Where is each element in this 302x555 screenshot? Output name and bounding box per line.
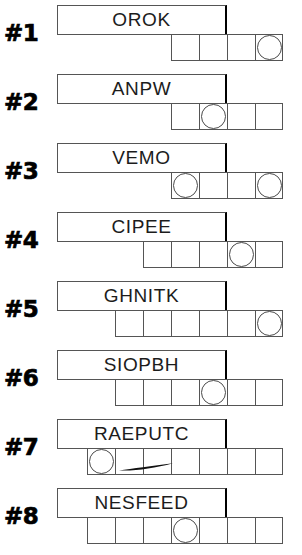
answer-cell[interactable] — [115, 517, 143, 544]
puzzle-row: #6SIOPBH — [0, 345, 302, 414]
answer-cell[interactable] — [227, 34, 255, 61]
answer-cell[interactable] — [115, 448, 143, 475]
answer-cell[interactable] — [227, 517, 255, 544]
circle-icon — [173, 518, 198, 543]
row-number-label: #8 — [4, 503, 56, 529]
scrambled-word-box: SIOPBH — [57, 350, 227, 380]
answer-cell[interactable] — [199, 517, 227, 544]
answer-cell[interactable] — [87, 517, 115, 544]
scrambled-word-box: GHNITK — [57, 281, 227, 311]
answer-cell-strip — [171, 172, 283, 199]
answer-cell[interactable] — [255, 448, 283, 475]
answer-cell[interactable] — [143, 310, 171, 337]
answer-cell-strip — [171, 103, 283, 130]
answer-cell[interactable] — [199, 310, 227, 337]
circle-icon — [257, 173, 282, 198]
answer-cell[interactable] — [87, 448, 115, 475]
answer-cell[interactable] — [255, 517, 283, 544]
scrambled-word-box: CIPEE — [57, 212, 227, 242]
answer-cell-strip — [115, 379, 283, 406]
answer-cell[interactable] — [199, 448, 227, 475]
answer-cell[interactable] — [227, 310, 255, 337]
circle-icon — [89, 449, 114, 474]
scrambled-word-text: SIOPBH — [58, 354, 225, 376]
scrambled-word-box: OROK — [57, 5, 227, 35]
worksheet-sheet: #1OROK#2ANPW#3VEMO#4CIPEE#5GHNITK#6SIOPB… — [0, 0, 302, 555]
answer-cell-strip — [171, 34, 283, 61]
answer-cell[interactable] — [227, 379, 255, 406]
scrambled-word-text: GHNITK — [58, 285, 225, 307]
row-number-label: #5 — [4, 296, 56, 322]
puzzle-row: #5GHNITK — [0, 276, 302, 345]
answer-cell[interactable] — [199, 241, 227, 268]
circle-icon — [257, 311, 282, 336]
answer-cell[interactable] — [171, 103, 199, 130]
answer-cell[interactable] — [143, 517, 171, 544]
puzzle-row: #7RAEPUTC — [0, 414, 302, 483]
answer-cell-strip — [115, 310, 283, 337]
answer-cell-strip — [87, 448, 283, 475]
row-number-label: #2 — [4, 89, 56, 115]
answer-cell[interactable] — [227, 448, 255, 475]
scrambled-word-text: RAEPUTC — [58, 423, 225, 445]
puzzle-row: #3VEMO — [0, 138, 302, 207]
answer-cell[interactable] — [143, 379, 171, 406]
answer-cell[interactable] — [171, 448, 199, 475]
scrambled-word-text: CIPEE — [58, 216, 225, 238]
answer-cell[interactable] — [255, 310, 283, 337]
scrambled-word-text: ANPW — [58, 78, 225, 100]
answer-cell[interactable] — [255, 34, 283, 61]
answer-cell[interactable] — [171, 517, 199, 544]
puzzle-row: #8NESFEED — [0, 483, 302, 552]
circle-icon — [257, 35, 282, 60]
circle-icon — [201, 380, 226, 405]
answer-cell[interactable] — [199, 34, 227, 61]
answer-cell[interactable] — [115, 379, 143, 406]
row-number-label: #6 — [4, 365, 56, 391]
answer-cell[interactable] — [199, 172, 227, 199]
answer-cell[interactable] — [171, 310, 199, 337]
answer-cell[interactable] — [255, 172, 283, 199]
answer-cell[interactable] — [199, 103, 227, 130]
answer-cell[interactable] — [227, 241, 255, 268]
row-number-label: #4 — [4, 227, 56, 253]
answer-cell[interactable] — [227, 103, 255, 130]
answer-cell[interactable] — [255, 379, 283, 406]
answer-cell[interactable] — [255, 241, 283, 268]
answer-cell[interactable] — [171, 379, 199, 406]
circle-icon — [201, 104, 226, 129]
puzzle-row: #4CIPEE — [0, 207, 302, 276]
answer-cell[interactable] — [115, 310, 143, 337]
puzzle-row: #1OROK — [0, 0, 302, 69]
scrambled-word-text: VEMO — [58, 147, 225, 169]
answer-cell[interactable] — [255, 103, 283, 130]
circle-icon — [173, 173, 198, 198]
scrambled-word-box: RAEPUTC — [57, 419, 227, 449]
scrambled-word-text: OROK — [58, 9, 225, 31]
answer-cell[interactable] — [171, 241, 199, 268]
answer-cell[interactable] — [143, 448, 171, 475]
circle-icon — [229, 242, 254, 267]
answer-cell[interactable] — [171, 34, 199, 61]
answer-cell-strip — [87, 517, 283, 544]
scrambled-word-box: NESFEED — [57, 488, 227, 518]
row-number-label: #1 — [4, 20, 56, 46]
answer-cell-strip — [143, 241, 283, 268]
scrambled-word-box: ANPW — [57, 74, 227, 104]
puzzle-row: #2ANPW — [0, 69, 302, 138]
answer-cell[interactable] — [171, 172, 199, 199]
answer-cell[interactable] — [199, 379, 227, 406]
scrambled-word-box: VEMO — [57, 143, 227, 173]
row-number-label: #7 — [4, 434, 56, 460]
row-number-label: #3 — [4, 158, 56, 184]
answer-cell[interactable] — [143, 241, 171, 268]
scrambled-word-text: NESFEED — [58, 492, 225, 514]
answer-cell[interactable] — [227, 172, 255, 199]
